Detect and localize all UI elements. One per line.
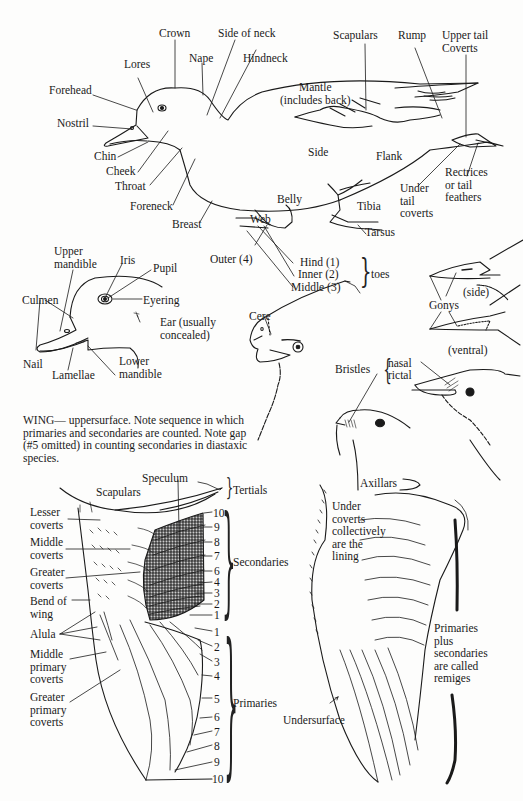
label-forehead: Forehead	[49, 84, 92, 96]
label-lores: Lores	[124, 58, 150, 70]
primary-number: 7	[214, 726, 220, 738]
secondary-number: 1	[214, 609, 220, 621]
primary-number: 4	[214, 670, 220, 682]
label-lesser-coverts: Lesser coverts	[30, 506, 63, 531]
label-flank: Flank	[376, 150, 402, 162]
label-bristles: Bristles	[335, 363, 370, 375]
label-throat: Throat	[115, 180, 146, 192]
label-under-tail-coverts: Under tail coverts	[400, 182, 433, 220]
bristles-birds-illustration	[336, 370, 520, 456]
label-bill-side: (side)	[463, 286, 489, 298]
label-nostril: Nostril	[57, 117, 89, 129]
label-remiges-note: Primaries plus secondaries are called re…	[434, 622, 488, 685]
label-iris: Iris	[120, 254, 135, 266]
secondary-number: 7	[214, 550, 220, 562]
primary-number: 2	[214, 641, 220, 653]
label-chin: Chin	[94, 150, 116, 162]
primary-number: 6	[214, 711, 220, 723]
label-pupil: Pupil	[153, 262, 177, 274]
label-secondaries: Secondaries	[233, 556, 289, 568]
label-rump: Rump	[398, 29, 426, 41]
label-outer-toe: Outer (4)	[210, 253, 252, 265]
label-side-of-neck: Side of neck	[218, 27, 275, 39]
upper-wing-illustration	[60, 488, 222, 780]
label-lamellae: Lamellae	[52, 369, 95, 381]
label-breast: Breast	[172, 218, 201, 230]
primary-number-ticks	[175, 628, 212, 770]
label-scapulars: Scapulars	[333, 29, 378, 41]
secondary-number: 9	[214, 521, 220, 533]
primary-number: 10	[212, 773, 224, 785]
label-primaries: Primaries	[233, 697, 277, 709]
label-bend-of-wing: Bend of wing	[30, 595, 67, 620]
label-speculum: Speculum	[142, 472, 188, 484]
label-rectrices: Rectrices or tail feathers	[445, 166, 488, 204]
primary-number: 9	[214, 756, 220, 768]
label-alula: Alula	[30, 628, 56, 640]
label-hind-toe: Hind (1)	[300, 256, 339, 268]
label-middle-primary-coverts: Middle primary coverts	[30, 648, 66, 686]
label-cheek: Cheek	[106, 165, 135, 177]
duck-leader-lines	[93, 40, 478, 287]
label-middle-coverts: Middle coverts	[30, 536, 63, 561]
label-belly: Belly	[277, 193, 302, 205]
secondary-number: 8	[214, 536, 220, 548]
label-ear: Ear (usually concealed)	[160, 316, 216, 341]
label-lower-mandible: Lower mandible	[119, 355, 162, 380]
label-web: Web	[250, 213, 271, 225]
label-nape: Nape	[189, 52, 213, 64]
toes-brace-icon: }	[360, 253, 372, 287]
label-cere: Cere	[249, 310, 271, 322]
label-nail: Nail	[23, 358, 43, 370]
label-scapulars-wing: Scapulars	[96, 486, 141, 498]
hawk-head-illustration	[250, 281, 360, 440]
label-rictal: rictal	[388, 369, 412, 381]
label-foreneck: Foreneck	[130, 200, 173, 212]
label-bill-ventral: (ventral)	[448, 344, 488, 356]
label-upper-tail-coverts: Upper tail Coverts	[442, 29, 488, 54]
wing-caption: WING— uppersurface. Note sequence in whi…	[23, 414, 263, 464]
label-tertials: Tertials	[233, 484, 267, 496]
primary-number: 8	[214, 740, 220, 752]
label-upper-mandible: Upper mandible	[54, 245, 97, 270]
primary-number: 1	[214, 626, 220, 638]
primary-number: 5	[214, 693, 220, 705]
label-gonys: Gonys	[429, 299, 459, 311]
label-axillars: Axillars	[360, 477, 397, 489]
label-hindneck: Hindneck	[243, 52, 288, 64]
label-crown: Crown	[159, 27, 190, 39]
label-side: Side	[308, 146, 328, 158]
label-under-coverts: Under coverts collectively are the linin…	[332, 500, 386, 563]
label-culmen: Culmen	[22, 294, 58, 306]
label-mantle: Mantle (includes back)	[280, 81, 351, 106]
under-wing-illustration	[310, 440, 500, 783]
label-middle-toe: Middle (3)	[291, 281, 341, 293]
label-greater-coverts: Greater coverts	[30, 566, 64, 591]
label-greater-primary-coverts: Greater primary coverts	[30, 691, 66, 729]
label-tibia: Tibia	[357, 200, 381, 212]
label-tarsus: Tarsus	[365, 226, 395, 238]
label-undersurface: Undersurface	[283, 714, 345, 726]
primary-number: 3	[214, 656, 220, 668]
label-eyering: Eyering	[143, 294, 179, 306]
label-inner-toe: Inner (2)	[298, 268, 339, 280]
label-nasal: nasal	[388, 357, 412, 369]
label-toes: toes	[371, 268, 390, 280]
